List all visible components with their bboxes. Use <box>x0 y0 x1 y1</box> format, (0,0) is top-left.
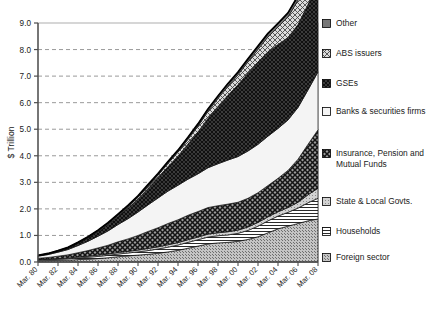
x-tick-label: Mar. 86 <box>75 265 99 289</box>
legend-label: State & Local Govts. <box>336 196 412 207</box>
y-tick-label: 6.0 <box>20 99 32 108</box>
y-tick-label: 4.0 <box>20 152 32 161</box>
legend-swatch-icon <box>322 19 331 28</box>
legend-label: Banks & securities firms <box>336 106 425 117</box>
y-tick-label: 2.0 <box>20 205 32 214</box>
x-tick-label: Mar. 08 <box>295 265 319 289</box>
legend-label: Other <box>336 18 357 29</box>
stacked-area-chart: 0.01.02.03.04.05.06.07.08.09.0$ Trillion… <box>0 0 432 313</box>
legend-item[interactable]: Foreign sector <box>322 252 432 263</box>
x-tick-label: Mar. 02 <box>235 265 259 289</box>
x-tick-label: Mar. 92 <box>135 265 159 289</box>
legend-item[interactable]: Insurance, Pension and Mutual Funds <box>322 148 432 170</box>
legend-label: Insurance, Pension and Mutual Funds <box>336 148 432 170</box>
legend-swatch-icon <box>322 227 331 236</box>
plot-area: 0.01.02.03.04.05.06.07.08.09.0$ Trillion… <box>6 0 319 289</box>
legend-label: ABS issuers <box>336 48 382 59</box>
y-tick-label: 8.0 <box>20 46 32 55</box>
y-tick-label: 5.0 <box>20 125 32 134</box>
legend-item[interactable]: Banks & securities firms <box>322 106 432 117</box>
legend-swatch-icon <box>322 253 331 262</box>
legend-item[interactable]: Households <box>322 226 432 237</box>
legend-swatch-icon <box>322 149 331 158</box>
x-tick-label: Mar. 00 <box>215 265 239 289</box>
legend-item[interactable]: State & Local Govts. <box>322 196 432 207</box>
legend-label: Households <box>336 226 380 237</box>
y-tick-label: 1.0 <box>20 231 32 240</box>
legend-swatch-icon <box>322 197 331 206</box>
y-tick-label: 9.0 <box>20 19 32 28</box>
y-tick-label: 3.0 <box>20 178 32 187</box>
legend-swatch-icon <box>322 107 331 116</box>
x-tick-label: Mar. 90 <box>115 265 139 289</box>
x-tick-label: Mar. 88 <box>95 265 119 289</box>
x-tick-label: Mar. 04 <box>255 265 279 289</box>
x-tick-label: Mar. 80 <box>15 265 39 289</box>
x-tick-label: Mar. 82 <box>35 265 59 289</box>
y-tick-label: 7.0 <box>20 72 32 81</box>
x-tick-label: Mar. 94 <box>155 265 179 289</box>
legend-swatch-icon <box>322 79 331 88</box>
legend-label: GSEs <box>336 78 358 89</box>
legend-item[interactable]: ABS issuers <box>322 48 432 59</box>
x-tick-label: Mar. 06 <box>275 265 299 289</box>
x-tick-label: Mar. 84 <box>55 265 79 289</box>
x-tick-label: Mar. 98 <box>195 265 219 289</box>
legend-swatch-icon <box>322 49 331 58</box>
x-tick-label: Mar. 96 <box>175 265 199 289</box>
y-tick-label: 0.0 <box>20 258 32 267</box>
legend-label: Foreign sector <box>336 252 390 263</box>
y-axis-title: $ Trillion <box>6 126 16 158</box>
legend-item[interactable]: GSEs <box>322 78 432 89</box>
legend-item[interactable]: Other <box>322 18 432 29</box>
